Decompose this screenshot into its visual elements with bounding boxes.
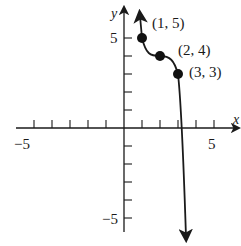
point-label-2-4: (2, 4) [178,42,211,59]
y-tick-label-5: 5 [110,30,118,46]
function-curve [142,38,186,236]
x-tick-label-5: 5 [208,136,216,152]
point-1-5 [137,33,147,43]
y-tick-label-neg5: −5 [102,211,118,227]
x-axis-label: x [232,112,240,127]
point-2-4 [155,51,165,61]
y-axis-label: y [109,6,118,21]
point-label-3-3: (3, 3) [189,64,222,81]
point-3-3 [173,69,183,79]
point-label-1-5: (1, 5) [152,15,185,32]
function-graph: y x −5 5 5 −5 (1, 5) (2, 4) (3, 3) [0,0,241,246]
x-tick-label-neg5: −5 [14,136,30,152]
